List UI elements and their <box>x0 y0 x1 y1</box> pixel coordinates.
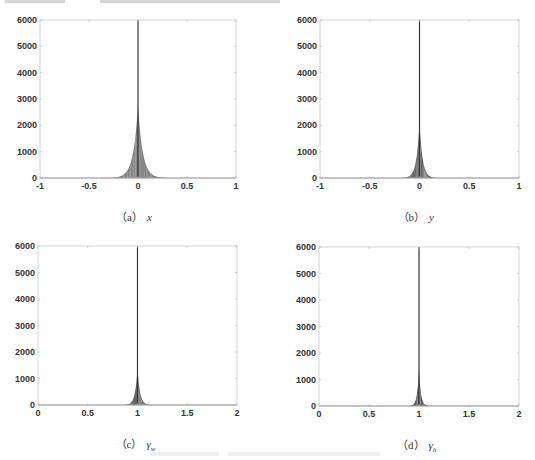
y-tick-label: 3000 <box>286 322 316 332</box>
x-tick-label: 0 <box>304 409 334 419</box>
y-tick-label: 1000 <box>286 375 316 385</box>
y-tick-label: 5000 <box>286 269 316 279</box>
y-tick-label: 4000 <box>286 295 316 305</box>
x-tick-label: 2 <box>504 409 534 419</box>
caption-label: （d） <box>397 439 425 451</box>
x-tick-label: 1.5 <box>454 409 484 419</box>
caption-variable-subscript: h <box>433 446 437 454</box>
x-tick-label: 0.5 <box>354 409 384 419</box>
y-tick-label: 2000 <box>286 348 316 358</box>
caption-variable: γh <box>429 439 437 451</box>
y-tick-label: 6000 <box>286 242 316 252</box>
panel-caption-d: （d）γh <box>397 436 436 454</box>
plot-area-d <box>0 0 535 460</box>
cropped-figure-caption <box>150 452 380 456</box>
x-tick-label: 1 <box>404 409 434 419</box>
